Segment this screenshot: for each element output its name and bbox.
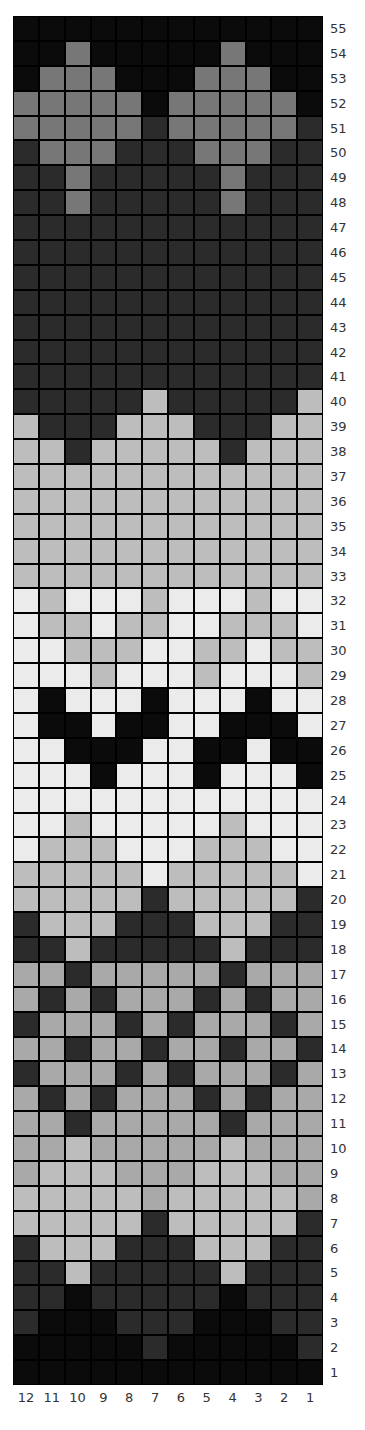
- chart-cell: [221, 789, 245, 812]
- chart-cell: [14, 415, 38, 438]
- chart-cell: [169, 1137, 193, 1160]
- chart-cell: [298, 963, 322, 986]
- chart-cell: [247, 639, 271, 662]
- row-label: 36: [330, 489, 365, 514]
- chart-cell: [92, 764, 116, 787]
- chart-cell: [40, 166, 64, 189]
- chart-cell: [247, 365, 271, 388]
- chart-cell: [247, 540, 271, 563]
- chart-cell: [14, 42, 38, 65]
- chart-cell: [92, 490, 116, 513]
- chart-cell: [247, 490, 271, 513]
- row-label: 17: [330, 962, 365, 987]
- chart-cell: [143, 415, 167, 438]
- chart-cell: [143, 689, 167, 712]
- chart-cell: [272, 1187, 296, 1210]
- chart-cell: [195, 1212, 219, 1235]
- chart-cell: [195, 465, 219, 488]
- chart-cell: [117, 540, 141, 563]
- chart-cell: [272, 789, 296, 812]
- chart-cell: [143, 440, 167, 463]
- chart-cell: [298, 1336, 322, 1359]
- chart-cell: [272, 141, 296, 164]
- chart-cell: [221, 739, 245, 762]
- row-label: 8: [330, 1186, 365, 1211]
- chart-cell: [117, 291, 141, 314]
- chart-cell: [247, 1112, 271, 1135]
- chart-cell: [117, 913, 141, 936]
- chart-cell: [66, 490, 90, 513]
- chart-cell: [143, 888, 167, 911]
- chart-cell: [298, 365, 322, 388]
- chart-cell: [195, 67, 219, 90]
- chart-cell: [143, 1013, 167, 1036]
- chart-cell: [40, 988, 64, 1011]
- row-label: 7: [330, 1211, 365, 1236]
- row-label: 29: [330, 663, 365, 688]
- row-label: 15: [330, 1012, 365, 1037]
- chart-cell: [169, 963, 193, 986]
- row-label: 40: [330, 389, 365, 414]
- chart-cell: [14, 938, 38, 961]
- chart-cell: [66, 390, 90, 413]
- chart-cell: [40, 664, 64, 687]
- chart-cell: [143, 1137, 167, 1160]
- chart-cell: [117, 465, 141, 488]
- chart-cell: [195, 440, 219, 463]
- chart-cell: [143, 1237, 167, 1260]
- chart-cell: [117, 341, 141, 364]
- chart-cell: [66, 440, 90, 463]
- chart-cell: [14, 739, 38, 762]
- row-label: 21: [330, 862, 365, 887]
- chart-cell: [169, 863, 193, 886]
- chart-cell: [143, 1062, 167, 1085]
- chart-cell: [195, 117, 219, 140]
- chart-cell: [221, 1336, 245, 1359]
- chart-cell: [298, 465, 322, 488]
- chart-cell: [195, 141, 219, 164]
- chart-cell: [272, 764, 296, 787]
- chart-cell: [143, 1361, 167, 1384]
- chart-cell: [14, 540, 38, 563]
- chart-cell: [143, 117, 167, 140]
- chart-cell: [92, 838, 116, 861]
- chart-cell: [143, 515, 167, 538]
- chart-cell: [14, 913, 38, 936]
- chart-cell: [143, 540, 167, 563]
- chart-cell: [143, 789, 167, 812]
- chart-cell: [169, 440, 193, 463]
- chart-cell: [40, 316, 64, 339]
- chart-cell: [143, 490, 167, 513]
- chart-cell: [247, 1137, 271, 1160]
- chart-cell: [92, 1013, 116, 1036]
- chart-cell: [66, 1162, 90, 1185]
- chart-cell: [221, 838, 245, 861]
- chart-cell: [221, 341, 245, 364]
- chart-cell: [14, 291, 38, 314]
- chart-cell: [143, 1038, 167, 1061]
- chart-cell: [14, 1237, 38, 1260]
- column-label: 8: [116, 1390, 142, 1410]
- chart-cell: [117, 216, 141, 239]
- chart-cell: [247, 67, 271, 90]
- chart-cell: [195, 689, 219, 712]
- chart-cell: [272, 1262, 296, 1285]
- chart-cell: [272, 490, 296, 513]
- chart-cell: [117, 266, 141, 289]
- chart-cell: [221, 1237, 245, 1260]
- chart-cell: [221, 490, 245, 513]
- chart-cell: [272, 415, 296, 438]
- chart-cell: [298, 1212, 322, 1235]
- chart-cell: [272, 1336, 296, 1359]
- chart-cell: [14, 838, 38, 861]
- chart-cell: [247, 1162, 271, 1185]
- chart-cell: [40, 639, 64, 662]
- chart-cell: [117, 316, 141, 339]
- chart-cell: [169, 515, 193, 538]
- chart-cell: [14, 365, 38, 388]
- chart-cell: [40, 863, 64, 886]
- chart-cell: [247, 963, 271, 986]
- chart-cell: [221, 1311, 245, 1334]
- chart-cell: [221, 42, 245, 65]
- chart-cell: [92, 191, 116, 214]
